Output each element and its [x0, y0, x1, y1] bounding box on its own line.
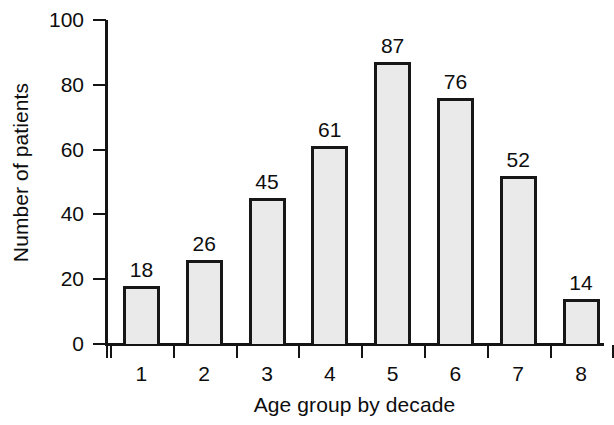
bar-value-label: 14: [551, 271, 611, 295]
bar-value-label: 76: [425, 70, 485, 94]
y-axis-tick: [93, 213, 106, 215]
bar-value-label: 45: [237, 170, 297, 194]
bar-value-label: 52: [488, 148, 548, 172]
y-axis-tick-label: 100: [12, 9, 84, 30]
x-axis-tick-label: 1: [111, 362, 171, 386]
x-axis-tick-label: 3: [237, 362, 297, 386]
bar: [123, 286, 160, 344]
x-axis-tick: [298, 345, 300, 358]
x-axis-tick: [236, 345, 238, 358]
bar-value-label: 87: [363, 34, 423, 58]
y-axis-tick-label: 0: [12, 333, 84, 354]
bar: [311, 146, 348, 344]
bar: [374, 62, 411, 344]
bar-value-label: 26: [174, 232, 234, 256]
y-axis-tick: [93, 343, 106, 345]
y-axis-title: Number of patients: [4, 0, 38, 345]
x-axis-tick: [424, 345, 426, 358]
x-axis-tick: [487, 345, 489, 358]
x-axis-tick-label: 6: [425, 362, 485, 386]
x-axis-tick-label: 2: [174, 362, 234, 386]
x-axis-tick: [550, 345, 552, 358]
x-axis-tick: [173, 345, 175, 358]
x-axis-tick-label: 8: [551, 362, 611, 386]
bar-value-label: 18: [111, 258, 171, 282]
y-axis-tick-label: 40: [12, 203, 84, 224]
bar: [437, 98, 474, 344]
y-axis-tick-label: 20: [12, 268, 84, 289]
y-axis-line: [105, 20, 108, 346]
y-axis-tick-label: 80: [12, 74, 84, 95]
y-axis-tick: [93, 19, 106, 21]
x-axis-tick-label: 7: [488, 362, 548, 386]
x-axis-tick-label: 5: [363, 362, 423, 386]
bar: [500, 176, 537, 344]
y-axis-tick: [93, 84, 106, 86]
bar: [186, 260, 223, 344]
x-axis-title: Age group by decade: [106, 393, 603, 417]
bar: [563, 299, 600, 344]
x-axis-tick: [110, 345, 112, 358]
x-axis-tick-label: 4: [300, 362, 360, 386]
y-axis-tick: [93, 149, 106, 151]
y-axis-tick-label: 60: [12, 139, 84, 160]
x-axis-tick: [361, 345, 363, 358]
y-axis-tick: [93, 278, 106, 280]
x-axis-origin-tick: [106, 345, 108, 358]
bar-value-label: 61: [300, 118, 360, 142]
bar: [249, 198, 286, 344]
